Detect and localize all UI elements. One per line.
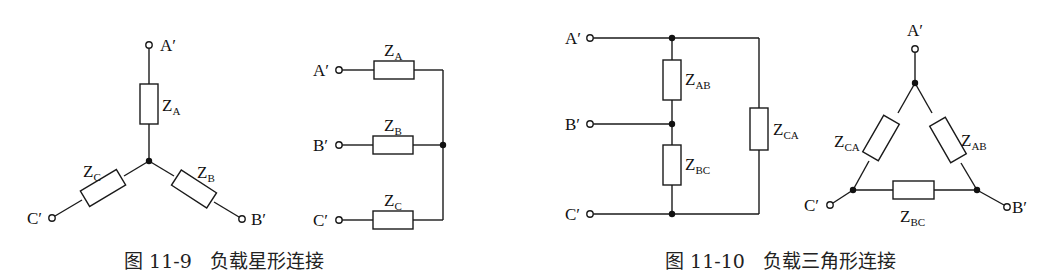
label-b: B′: [251, 210, 266, 229]
label-zbc: ZBC: [685, 155, 710, 176]
label-b: B′: [565, 115, 580, 134]
label-b: B′: [1012, 198, 1027, 217]
label-b: B′: [313, 136, 328, 155]
circuit-diagrams: A′ ZA ZC ZB C′ B′ A′ ZA B′ ZB C′ ZC A′ B…: [0, 0, 1048, 280]
label-zc: ZC: [83, 162, 101, 183]
delta-ladder-circuit: [587, 35, 768, 217]
label-c: C′: [313, 211, 328, 230]
caption-fig-11-9: 图 11-9 负载星形连接: [124, 246, 324, 273]
label-zab: ZAB: [961, 131, 987, 152]
terminal-b: [239, 216, 245, 222]
label-za: ZA: [384, 41, 402, 62]
label-a: A′: [907, 21, 923, 40]
label-zca: ZCA: [834, 132, 860, 153]
caption-text: 负载三角形连接: [763, 250, 896, 272]
label-zca: ZCA: [773, 120, 799, 141]
terminal-a: [146, 42, 152, 48]
star-circuit: [49, 42, 245, 222]
label-za: ZA: [162, 96, 180, 117]
label-a: A′: [313, 61, 329, 80]
caption-number: 图 11-10: [665, 250, 745, 272]
label-zbc: ZBC: [900, 207, 925, 228]
label-zab: ZAB: [685, 70, 711, 91]
label-a: A′: [160, 36, 176, 55]
label-zb: ZB: [197, 163, 215, 184]
label-c: C′: [804, 196, 819, 215]
label-zc: ZC: [384, 191, 402, 212]
label-zb: ZB: [384, 116, 402, 137]
terminal-c: [49, 215, 55, 221]
label-c: C′: [27, 209, 42, 228]
neutral-node: [146, 158, 152, 164]
label-c: C′: [565, 205, 580, 224]
resistor-za: [140, 84, 158, 124]
delta-triangle-circuit: [827, 46, 1010, 210]
caption-text: 负载星形连接: [210, 250, 324, 272]
caption-number: 图 11-9: [124, 250, 192, 272]
label-a: A′: [565, 29, 581, 48]
caption-fig-11-10: 图 11-10 负载三角形连接: [665, 246, 896, 273]
